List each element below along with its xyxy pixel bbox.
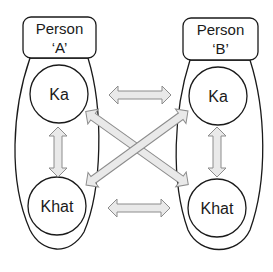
arrow-ka-b-to-khat-b <box>208 127 226 177</box>
person-a-title-line1: Person <box>36 20 84 37</box>
person-b-title-line1: Person <box>197 21 245 38</box>
person-a-title-line2: ‘A’ <box>52 39 68 56</box>
person-b-khat-label: Khat <box>201 200 234 217</box>
arrow-khat-a-to-khat-b <box>108 199 170 217</box>
person-b-title-line2: ‘B’ <box>212 40 229 57</box>
person-b-ka-label: Ka <box>208 88 228 105</box>
arrow-ka-a-to-khat-a <box>49 127 67 177</box>
arrow-ka-a-to-ka-b <box>109 86 171 104</box>
person-a-khat-label: Khat <box>41 198 74 215</box>
person-a-ka-label: Ka <box>49 86 69 103</box>
ka-khat-diagram: Person ‘A’ Ka Khat Person ‘B’ Ka Khat <box>0 0 273 272</box>
